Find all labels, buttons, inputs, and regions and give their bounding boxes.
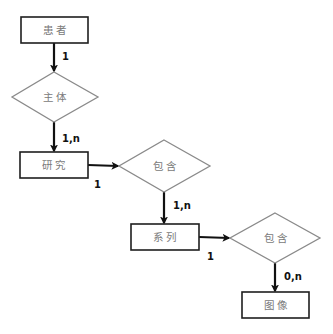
cardinality-label: 0,n bbox=[284, 271, 302, 282]
entity-label: 图像 bbox=[264, 299, 290, 311]
edge-subject-study: 1,n bbox=[54, 122, 80, 151]
cardinality-label: 1 bbox=[94, 179, 101, 190]
entity-patient: 患者 bbox=[21, 17, 88, 43]
entity-label: 系列 bbox=[153, 231, 179, 243]
cardinality-label: 1,n bbox=[62, 133, 80, 144]
cardinality-label: 1 bbox=[62, 51, 69, 62]
entity-label: 研究 bbox=[42, 159, 68, 171]
relationship-label: 包含 bbox=[264, 232, 290, 244]
relationship-label: 包含 bbox=[153, 160, 179, 172]
relationship-contains-study-series: 包含 bbox=[119, 140, 210, 192]
entity-study: 研究 bbox=[20, 152, 88, 178]
relationship-subject: 主体 bbox=[12, 72, 98, 122]
edge-patient-subject: 1 bbox=[54, 43, 69, 71]
er-diagram: 1 1,n 1 1,n 1 0,n 患者 研究 系列 图像 主体 bbox=[0, 0, 333, 334]
relationship-label: 主体 bbox=[43, 91, 69, 103]
edge-series-contains: 1 bbox=[199, 237, 229, 262]
edge-contains-image: 0,n bbox=[275, 263, 302, 291]
arrow-right-icon bbox=[88, 165, 118, 166]
relationship-contains-series-image: 包含 bbox=[230, 213, 320, 263]
entity-image: 图像 bbox=[242, 292, 309, 318]
edge-study-contains: 1 bbox=[88, 165, 118, 190]
entity-label: 患者 bbox=[43, 24, 69, 36]
cardinality-label: 1,n bbox=[173, 200, 191, 211]
entity-series: 系列 bbox=[131, 224, 199, 250]
arrow-right-icon bbox=[199, 237, 229, 238]
edge-contains-series: 1,n bbox=[164, 192, 191, 223]
cardinality-label: 1 bbox=[207, 251, 214, 262]
